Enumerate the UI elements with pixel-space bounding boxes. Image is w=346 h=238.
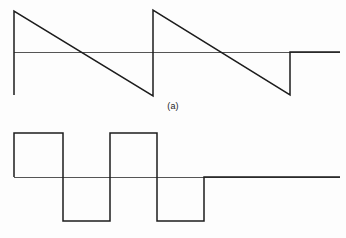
sawtooth-signal-trace xyxy=(14,10,340,96)
caption-a: (a) xyxy=(0,101,346,111)
panel-square: (b) xyxy=(0,119,346,238)
square-wave-plot xyxy=(0,119,346,238)
panel-sawtooth: (a) xyxy=(0,0,346,119)
waveform-figure: (a) (b) xyxy=(0,0,346,238)
